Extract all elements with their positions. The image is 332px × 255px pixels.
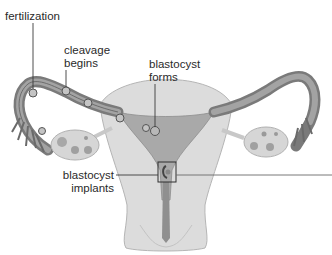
label-blastocyst-forms: blastocyst forms bbox=[149, 58, 200, 84]
left-ovary bbox=[51, 128, 112, 160]
right-ovary bbox=[222, 127, 288, 157]
uterus bbox=[100, 80, 232, 251]
label-fertilization: fertilization bbox=[5, 10, 60, 23]
label-cleavage-begins: cleavage begins bbox=[64, 44, 110, 70]
cervical-canal bbox=[162, 182, 170, 243]
reproductive-tract-diagram: fertilization cleavage begins blastocyst… bbox=[0, 0, 332, 255]
diagram-illustration bbox=[0, 0, 332, 255]
label-blastocyst-implants: blastocyst implants bbox=[63, 169, 114, 195]
